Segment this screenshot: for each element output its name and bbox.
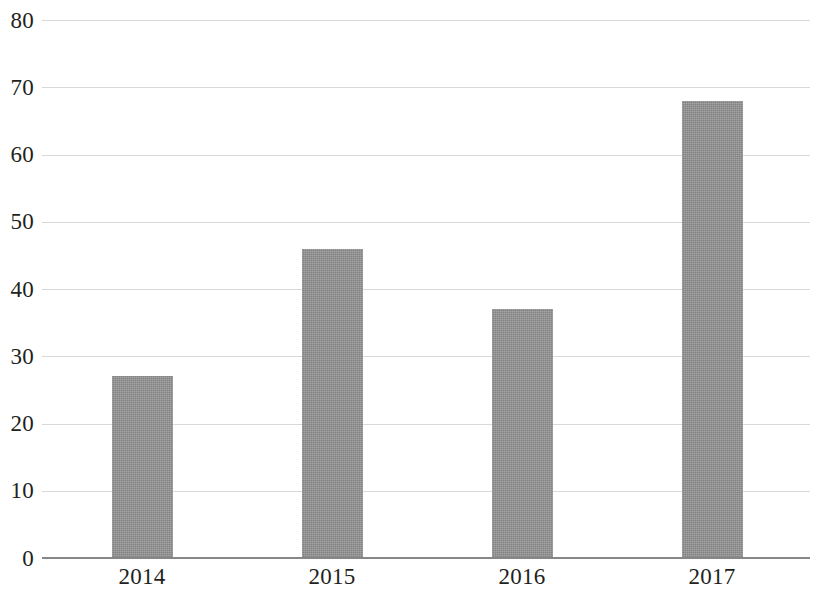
x-tick-label-2014: 2014	[62, 563, 222, 592]
bar-chart: 80 70 60 50 40 30 20 10 0 2014 2015 2016…	[0, 0, 820, 597]
x-axis-labels: 2014 2015 2016 2017	[0, 0, 820, 597]
x-tick-label-2016: 2016	[442, 563, 602, 592]
x-tick-label-2017: 2017	[632, 563, 792, 592]
x-tick-label-2015: 2015	[252, 563, 412, 592]
